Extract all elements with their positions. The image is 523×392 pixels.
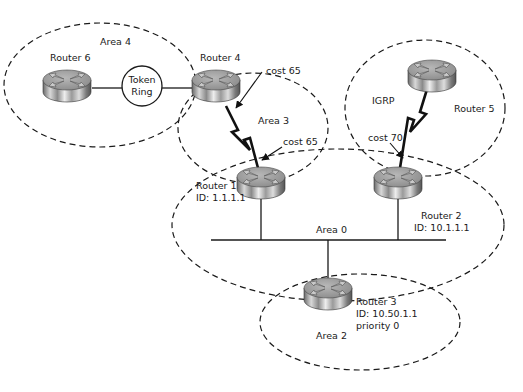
- igrp-label: IGRP: [372, 95, 395, 106]
- router-3-name: Router 3: [356, 296, 397, 307]
- serial-link-router5-router2: [400, 86, 428, 168]
- router-1-id: ID: 1.1.1.1: [196, 192, 246, 203]
- router-2-id: ID: 10.1.1.1: [414, 222, 470, 233]
- token-ring: Token Ring: [122, 66, 162, 106]
- cost-label-router1: cost 65: [283, 136, 318, 147]
- cost-label-router4: cost 65: [266, 65, 301, 76]
- router-6-name: Router 6: [50, 52, 91, 63]
- router-4-name: Router 4: [200, 52, 241, 63]
- router-3-id: ID: 10.50.1.1: [356, 308, 418, 319]
- token-ring-label-line2: Ring: [131, 86, 152, 97]
- router-3[interactable]: [304, 278, 352, 310]
- router-2-name: Router 2: [421, 210, 462, 221]
- area-2-label: Area 2: [316, 330, 347, 341]
- token-ring-label-line1: Token: [127, 74, 155, 85]
- network-diagram: Token Ring Area 4 Area 3 IGRP Area 0 Are…: [0, 0, 523, 392]
- router-5-name: Router 5: [454, 103, 495, 114]
- router-5[interactable]: [408, 60, 456, 92]
- router-3-priority: priority 0: [356, 320, 399, 331]
- router-4[interactable]: [192, 70, 240, 102]
- cost-label-router2: cost 70: [368, 132, 403, 143]
- area-3-label: Area 3: [258, 115, 289, 126]
- router-2[interactable]: [374, 167, 422, 199]
- router-1-name: Router 1: [196, 180, 237, 191]
- router-6[interactable]: [43, 70, 91, 102]
- area-4-label: Area 4: [100, 36, 131, 47]
- area-0-label: Area 0: [316, 224, 347, 235]
- cost-arrow-router2: [390, 143, 403, 158]
- serial-link-router4-router1: [226, 106, 258, 168]
